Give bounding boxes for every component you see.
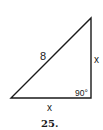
figure-number: 25. bbox=[41, 118, 58, 129]
right-angle-label: 90° bbox=[75, 88, 88, 98]
right-triangle-diagram: 8 x x 90° 25. bbox=[0, 0, 103, 130]
hypotenuse-label: 8 bbox=[40, 50, 46, 62]
horizontal-leg-label: x bbox=[47, 102, 52, 113]
vertical-leg-label: x bbox=[94, 54, 99, 65]
triangle-shape bbox=[11, 18, 91, 98]
